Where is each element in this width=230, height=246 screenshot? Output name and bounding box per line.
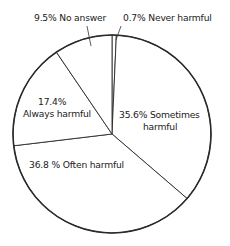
label-sometimes-line2: harmful: [143, 121, 177, 132]
pie-chart: 9.5% No answer 0.7% Never harmful 17.4% …: [0, 0, 230, 246]
label-sometimes-line1: 35.6% Sometimes: [119, 109, 200, 120]
label-always-harmful-pct: 17.4%: [38, 96, 67, 107]
label-never-harmful: 0.7% Never harmful: [123, 12, 212, 23]
pie-slices: [13, 35, 211, 233]
label-often-harmful: 36.8 % Often harmful: [29, 159, 124, 170]
label-no-answer: 9.5% No answer: [34, 12, 106, 23]
label-always-harmful-text: Always harmful: [23, 108, 91, 119]
